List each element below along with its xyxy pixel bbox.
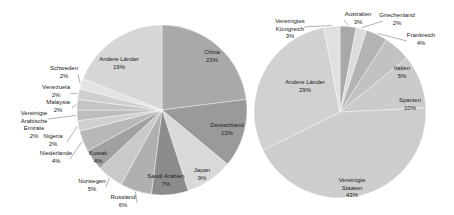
slice-label: Niederlande4% (40, 150, 73, 164)
pie-charts-svg: China23%Deutschland13%Japan9%Saudi Arabi… (0, 0, 454, 215)
leader-line (67, 126, 78, 142)
slice-label: Griechenland2% (379, 12, 415, 26)
slice-label: Frankreich4% (407, 32, 435, 46)
slice-label: Schweden2% (50, 65, 78, 79)
pie-slice (162, 25, 246, 110)
slice-label: Australien3% (345, 11, 372, 25)
slice-label: Malaysia2% (46, 99, 70, 113)
leader-line (106, 178, 109, 187)
slice-label: Venezuela2% (42, 84, 71, 98)
leader-line (362, 21, 383, 28)
slice-label: Norwegen5% (78, 178, 105, 192)
leader-line (48, 115, 76, 119)
pie-chart-2 (254, 20, 426, 198)
leader-line (344, 20, 348, 25)
leader-line (135, 192, 137, 203)
slice-label: Nigeria2% (43, 133, 63, 147)
leader-line (70, 93, 78, 94)
leader-line (78, 74, 80, 83)
slice-label: Russland6% (110, 194, 135, 208)
leader-line (72, 105, 76, 108)
pie-charts: China23%Deutschland13%Japan9%Saudi Arabi… (0, 0, 454, 215)
